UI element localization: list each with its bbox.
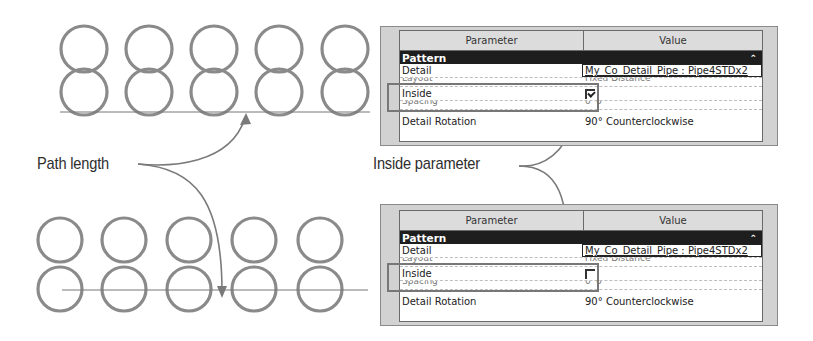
param-name: Detail <box>400 245 583 256</box>
param-value: Fixed Distance <box>583 78 762 83</box>
param-value[interactable]: 90° Counterclockwise <box>583 116 762 127</box>
inside-row-highlight <box>387 83 599 112</box>
inside-parameter-label: Inside parameter <box>373 154 480 174</box>
group-name: Pattern <box>402 52 446 64</box>
param-value <box>583 269 762 279</box>
bottom-pipe-pattern <box>38 218 342 311</box>
param-value: 0' 6" <box>583 101 762 106</box>
param-name: Layout <box>400 78 583 83</box>
table-row-detail[interactable]: Detail My_Co_Detail_Pipe : Pipe4STDx2 <box>400 64 762 78</box>
table-row-detail[interactable]: Detail My_Co_Detail_Pipe : Pipe4STDx2 <box>400 244 762 258</box>
detail-value-field[interactable]: My_Co_Detail_Pipe : Pipe4STDx2 <box>582 244 762 257</box>
group-header-pattern[interactable]: Pattern ⌃ <box>400 231 762 244</box>
param-name: Detail <box>400 65 583 76</box>
properties-panel-inside-unchecked: Parameter Value Pattern ⌃ Detail My_Co_D… <box>380 204 778 326</box>
group-header-pattern[interactable]: Pattern ⌃ <box>400 51 762 64</box>
group-name: Pattern <box>402 232 446 244</box>
param-name: Detail Rotation <box>400 296 583 307</box>
table-row-detail-rotation[interactable]: Detail Rotation 90° Counterclockwise <box>400 110 762 132</box>
param-value: Fixed Distance <box>583 258 762 263</box>
column-header-value[interactable]: Value <box>584 211 762 230</box>
param-name: Detail Rotation <box>400 116 583 127</box>
param-value[interactable]: 90° Counterclockwise <box>583 296 762 307</box>
detail-value-field[interactable]: My_Co_Detail_Pipe : Pipe4STDx2 <box>582 64 762 77</box>
param-value: 0' 6" <box>583 281 762 286</box>
inside-row-highlight <box>387 263 599 292</box>
double-chevron-up-icon[interactable]: ⌃ <box>749 233 757 243</box>
param-name: Layout <box>400 258 583 263</box>
column-header-value[interactable]: Value <box>584 31 762 50</box>
table-header: Parameter Value <box>400 211 762 231</box>
column-header-parameter[interactable]: Parameter <box>400 31 584 50</box>
properties-panel-inside-checked: Parameter Value Pattern ⌃ Detail My_Co_D… <box>380 26 778 146</box>
double-chevron-up-icon[interactable]: ⌃ <box>749 53 757 63</box>
param-value <box>583 89 762 99</box>
arrowhead-down-icon <box>217 286 227 298</box>
top-pipe-pattern <box>61 26 368 115</box>
path-length-label: Path length <box>37 154 109 174</box>
table-header: Parameter Value <box>400 31 762 51</box>
arrowhead-up-icon <box>240 113 251 125</box>
table-row-detail-rotation[interactable]: Detail Rotation 90° Counterclockwise <box>400 290 762 312</box>
column-header-parameter[interactable]: Parameter <box>400 211 584 230</box>
